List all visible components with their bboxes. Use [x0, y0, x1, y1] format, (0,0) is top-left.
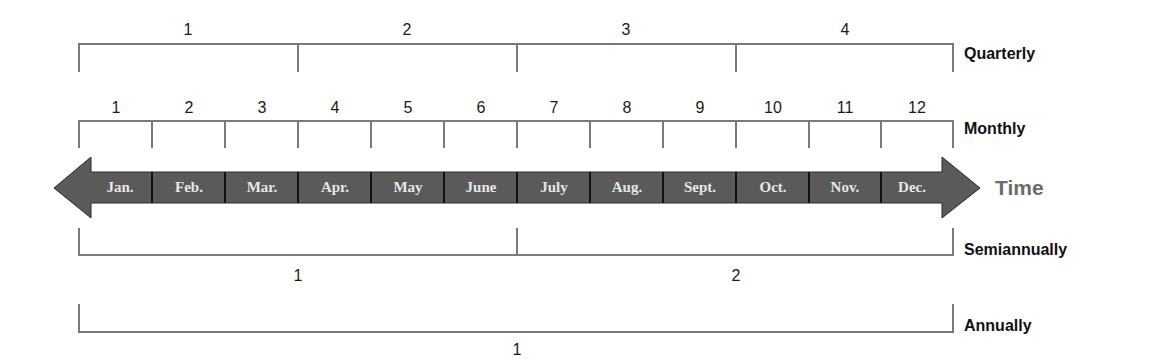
- semiannually-label: Semiannually: [964, 242, 1067, 258]
- month-number: 3: [258, 100, 267, 116]
- month-number: 9: [696, 100, 705, 116]
- quarterly-bracket: [79, 44, 953, 72]
- month-number: 5: [404, 100, 413, 116]
- quarterly-label: Quarterly: [964, 46, 1035, 62]
- month-label: May: [393, 180, 422, 195]
- quarter-number: 3: [622, 22, 631, 38]
- month-number: 8: [623, 100, 632, 116]
- annually-label: Annually: [964, 318, 1032, 334]
- month-number: 10: [764, 100, 782, 116]
- month-label: Apr.: [321, 180, 349, 195]
- monthly-label: Monthly: [964, 121, 1025, 137]
- time-axis-label: Time: [995, 177, 1044, 198]
- month-number: 2: [185, 100, 194, 116]
- month-number: 11: [837, 100, 854, 116]
- month-number: 1: [112, 100, 121, 116]
- month-label: June: [466, 180, 497, 195]
- month-label: Aug.: [612, 180, 642, 195]
- month-label: Oct.: [759, 180, 786, 195]
- month-number: 4: [331, 100, 340, 116]
- semiannual-number: 1: [294, 268, 303, 284]
- month-label: Feb.: [175, 180, 203, 195]
- month-label: Mar.: [247, 180, 278, 195]
- compounding-periods-diagram: 1 2 3 4 Quarterly 1 2 3 4 5 6 7 8 9 10 1…: [0, 0, 1151, 362]
- month-label: Nov.: [831, 180, 860, 195]
- semiannual-number: 2: [732, 268, 741, 284]
- monthly-bracket: [79, 121, 953, 148]
- month-number: 7: [550, 100, 559, 116]
- annual-number: 1: [513, 342, 522, 358]
- annual-bracket: [79, 304, 953, 332]
- month-label: Dec.: [898, 180, 926, 195]
- month-number: 6: [477, 100, 486, 116]
- month-label: July: [540, 180, 568, 195]
- quarter-number: 4: [841, 22, 850, 38]
- semiannual-bracket: [79, 228, 953, 255]
- quarter-number: 1: [184, 22, 193, 38]
- quarter-number: 2: [403, 22, 412, 38]
- month-label: Sept.: [684, 180, 716, 195]
- month-number: 12: [908, 100, 926, 116]
- month-label: Jan.: [106, 180, 133, 195]
